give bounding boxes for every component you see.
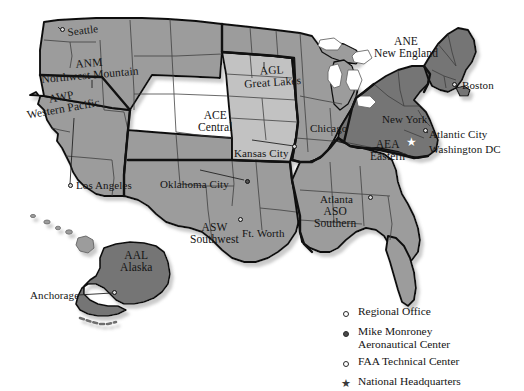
marker-boston-regional-office [452, 82, 457, 87]
region-name-aal: Alaska [120, 262, 153, 274]
city-label-chicago: Chicago [310, 123, 347, 134]
region-name-ane: New England [374, 48, 438, 60]
legend-label-regional-office: Regional Office [358, 305, 431, 318]
map-legend: Regional Office Mike Monroney Aeronautic… [341, 305, 521, 391]
marker-atlantic-city-faa-technical-center [423, 128, 428, 133]
marker-ft-worth-regional-office [238, 217, 243, 222]
city-label-boston: Boston [462, 80, 494, 91]
legend-label-mike-monroney: Mike Monroney Aeronautical Center [358, 325, 450, 351]
city-label-oklahoma-city: Oklahoma City [160, 179, 229, 190]
aleutian-islands [80, 318, 116, 324]
marker-washington-dc-national-headquarters: ★ [406, 136, 417, 148]
region-label-agl: AGL Great Lakes [243, 63, 302, 91]
marker-los-angeles-regional-office [68, 183, 73, 188]
marker-oklahoma-city-mike-monroney [245, 179, 250, 184]
region-name-aso: Southern [314, 218, 356, 230]
region-name-asw: Southwest [190, 234, 239, 246]
legend-item-regional-office: Regional Office [341, 305, 521, 320]
region-label-aal: AAL Alaska [120, 250, 153, 274]
faa-technical-center-icon [341, 355, 351, 370]
region-label-asw: ASW Southwest [190, 222, 239, 246]
legend-item-national-headquarters: ★ National Headquarters [341, 375, 521, 390]
national-headquarters-star-icon: ★ [341, 375, 351, 390]
city-label-washington-dc: Washington DC [429, 144, 501, 155]
marker-seattle-regional-office [60, 27, 65, 32]
legend-label-national-headquarters: National Headquarters [358, 375, 461, 388]
region-name-ace: Central [198, 122, 233, 134]
marker-atlanta-regional-office [368, 195, 373, 200]
marker-anchorage-regional-office [112, 290, 117, 295]
city-label-kansas-city: Kansas City [234, 148, 289, 159]
hawaii-islands [30, 214, 94, 253]
legend-item-faa-technical-center: FAA Technical Center [341, 355, 521, 370]
region-label-aso: ASO Southern [314, 206, 356, 230]
city-label-anchorage: Anchorage [30, 290, 79, 301]
city-label-new-york: New York [382, 114, 427, 125]
city-label-atlanta: Atlanta [320, 194, 353, 205]
legend-item-mike-monroney: Mike Monroney Aeronautical Center [341, 325, 521, 351]
region-label-ace: ACE Central [198, 110, 233, 134]
region-label-ane: ANE New England [374, 36, 438, 60]
regional-office-icon [341, 305, 351, 320]
region-name-aea: Eastern [370, 151, 405, 163]
legend-label-faa-technical-center: FAA Technical Center [358, 355, 459, 368]
mike-monroney-icon [341, 325, 351, 340]
marker-kansas-city-regional-office [292, 144, 297, 149]
city-label-ft-worth: Ft. Worth [242, 228, 285, 239]
city-label-los-angeles: Los Angeles [76, 180, 132, 191]
region-label-aea: AEA Eastern [370, 139, 405, 163]
city-label-atlantic-city: Atlantic City [429, 129, 487, 140]
